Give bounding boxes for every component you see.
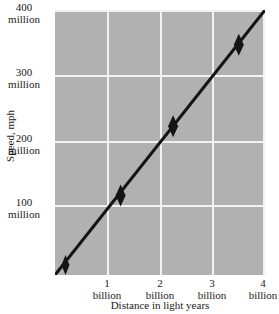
y-axis-title: Speed, mph	[4, 96, 16, 176]
x-tick-4b: 4 billion	[233, 277, 279, 301]
y-tick-100-unit: million	[0, 209, 49, 221]
data-series-line	[55, 10, 265, 275]
x-tick-4b-value: 4	[233, 277, 279, 289]
y-tick-300: 300 million	[0, 67, 49, 90]
x-tick-1b-value: 1	[77, 277, 137, 289]
x-tick-2b-value: 2	[130, 277, 190, 289]
y-tick-100: 100 million	[0, 197, 49, 220]
y-tick-400-value: 400	[0, 2, 49, 14]
y-tick-100-value: 100	[0, 197, 49, 209]
trend-line	[55, 10, 265, 275]
y-tick-300-value: 300	[0, 67, 49, 79]
x-tick-2b: 2 billion	[130, 277, 190, 301]
data-point-marker-3	[168, 115, 178, 137]
plot-area	[55, 10, 265, 275]
y-tick-300-unit: million	[0, 79, 49, 91]
x-tick-1b: 1 billion	[77, 277, 137, 301]
x-axis-title: Distance in light years	[55, 299, 265, 311]
chart-figure: 400 million 300 million 200 million 100 …	[0, 0, 279, 314]
y-tick-400: 400 million	[0, 2, 49, 25]
y-tick-400-unit: million	[0, 14, 49, 26]
